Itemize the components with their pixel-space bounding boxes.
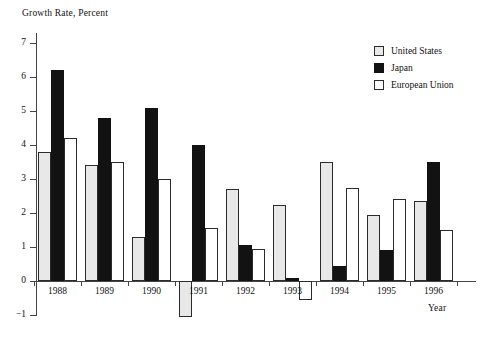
- x-group-label-1995: 1995: [361, 286, 412, 296]
- x-group-label-1990: 1990: [126, 286, 177, 296]
- bar-jp-1996: [427, 162, 440, 281]
- legend-label-jp: Japan: [391, 63, 413, 73]
- legend-item-eu[interactable]: European Union: [374, 76, 454, 93]
- legend-label-us: United States: [391, 46, 442, 56]
- bar-jp-1991: [192, 145, 205, 281]
- x-group-label-1989: 1989: [79, 286, 130, 296]
- bar-eu-1994: [346, 188, 359, 282]
- bar-jp-1988: [51, 70, 64, 281]
- bar-eu-1991: [205, 228, 218, 281]
- x-group-label-1994: 1994: [314, 286, 365, 296]
- bar-us-1992: [226, 189, 239, 281]
- x-group-label-1988: 1988: [32, 286, 83, 296]
- bar-jp-1994: [333, 266, 346, 281]
- bar-us-1989: [85, 165, 98, 281]
- legend-swatch-us: [374, 46, 384, 56]
- chart-legend: United StatesJapanEuropean Union: [374, 42, 454, 93]
- bar-eu-1988: [64, 138, 77, 281]
- bar-jp-1990: [145, 108, 158, 281]
- x-group-label-1991: 1991: [173, 286, 224, 296]
- growth-rate-bar-chart: Growth Rate, Percent Year −101234567 Uni…: [0, 0, 484, 342]
- bar-jp-1995: [380, 250, 393, 281]
- x-group-label-1992: 1992: [220, 286, 271, 296]
- legend-swatch-jp: [374, 63, 384, 73]
- bar-us-1993: [273, 205, 286, 282]
- x-group-label-1996: 1996: [408, 286, 459, 296]
- bar-us-1996: [414, 201, 427, 281]
- legend-swatch-eu: [374, 80, 384, 90]
- bar-us-1994: [320, 162, 333, 281]
- bar-jp-1993: [286, 278, 299, 281]
- legend-label-eu: European Union: [391, 80, 454, 90]
- legend-item-us[interactable]: United States: [374, 42, 454, 59]
- bar-us-1988: [38, 152, 51, 281]
- x-group-label-1993: 1993: [267, 286, 318, 296]
- bar-us-1995: [367, 215, 380, 281]
- legend-item-jp[interactable]: Japan: [374, 59, 454, 76]
- bar-eu-1989: [111, 162, 124, 281]
- bar-jp-1989: [98, 118, 111, 281]
- bar-eu-1996: [440, 230, 453, 281]
- bar-eu-1995: [393, 199, 406, 281]
- bar-us-1990: [132, 237, 145, 281]
- bar-jp-1992: [239, 245, 252, 281]
- bar-eu-1992: [252, 249, 265, 281]
- bar-eu-1990: [158, 179, 171, 281]
